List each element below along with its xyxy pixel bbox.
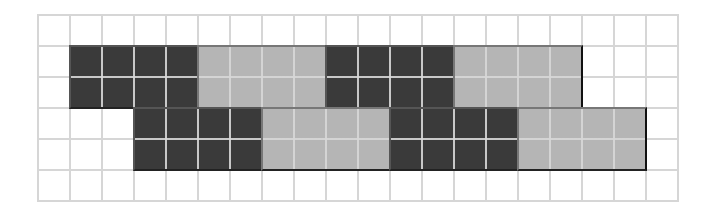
light-block (261, 107, 391, 171)
dark-block (389, 107, 519, 171)
light-block (453, 45, 583, 109)
dark-block (69, 45, 199, 109)
grid-diagram (37, 14, 679, 202)
dark-block (325, 45, 455, 109)
dark-block (133, 107, 263, 171)
light-block (197, 45, 327, 109)
light-block (517, 107, 647, 171)
